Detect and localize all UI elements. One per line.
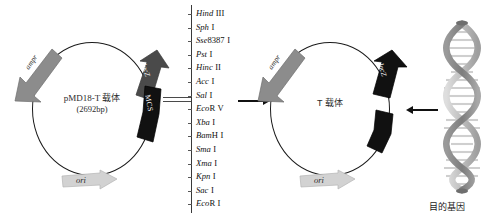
enzyme-name: Sph: [196, 22, 209, 32]
ampr-feature-right: [249, 44, 315, 106]
enzyme-name: Sma: [196, 144, 211, 154]
enzyme-tick: [188, 14, 192, 15]
enzyme-name: Kpn: [196, 171, 210, 181]
enzyme-tick: [188, 109, 192, 110]
enzyme-item[interactable]: HincII: [196, 61, 221, 74]
lacz-feature-right-upper: [362, 48, 414, 104]
enzyme-numeral: V: [218, 103, 224, 113]
right-plasmid-name-block: T 载体: [270, 98, 390, 109]
enzyme-item[interactable]: KpnI: [196, 170, 216, 183]
enzyme-tick: [188, 82, 192, 83]
ori-feature-right: [298, 170, 358, 192]
enzyme-item[interactable]: SmaI: [196, 143, 216, 156]
enzyme-tick: [188, 164, 192, 165]
left-plasmid-name-block: pMD18-T 载体 (2692bp): [32, 93, 152, 115]
figure-canvas: ampr lacZ MCS ori pMD18-T 载体 (2692bp) Hi…: [0, 0, 489, 223]
enzyme-tick: [188, 136, 192, 137]
target-gene-helix: [437, 18, 487, 196]
enzyme-numeral: II: [215, 62, 221, 72]
mcs-connector-lower: [163, 101, 192, 102]
enzyme-item[interactable]: SphI: [196, 21, 214, 34]
enzyme-numeral: I: [218, 198, 221, 208]
enzyme-item[interactable]: XmaI: [196, 157, 217, 170]
enzyme-name-suffix: H: [212, 130, 218, 140]
enzyme-name: Xba: [196, 117, 210, 127]
enzyme-item[interactable]: BamHI: [196, 129, 223, 142]
ori-feature-left: [60, 170, 120, 192]
enzyme-name: Eco: [196, 198, 209, 208]
enzyme-name: Sse: [196, 35, 207, 45]
enzyme-tick: [188, 204, 192, 205]
enzyme-item[interactable]: EcoRV: [196, 102, 224, 115]
enzyme-item[interactable]: XbaI: [196, 116, 215, 129]
enzyme-name: Pst: [196, 49, 207, 59]
restriction-enzyme-list: HindIIISphISse8387IPstIHincIIAccISalIEco…: [191, 3, 253, 217]
enzyme-name: Sal: [196, 90, 207, 100]
enzyme-numeral: I: [214, 158, 217, 168]
enzyme-name-suffix: R: [209, 198, 215, 208]
enzyme-name-suffix: R: [209, 103, 215, 113]
enzyme-name: Sac: [196, 185, 208, 195]
enzyme-item[interactable]: SalI: [196, 89, 212, 102]
enzyme-item[interactable]: AccI: [196, 75, 214, 88]
insertion-arrow: [406, 105, 438, 115]
enzyme-numeral: I: [213, 144, 216, 154]
enzyme-tick: [188, 150, 192, 151]
enzyme-tick: [188, 68, 192, 69]
enzyme-numeral: I: [227, 35, 230, 45]
enzyme-numeral: I: [209, 49, 212, 59]
target-gene-label: 目的基因: [429, 200, 465, 213]
enzyme-tick: [188, 41, 192, 42]
enzyme-name: Hinc: [196, 62, 213, 72]
enzyme-name: Bam: [196, 130, 212, 140]
enzyme-name: Hind: [196, 8, 213, 18]
enzyme-numeral: I: [212, 117, 215, 127]
right-plasmid-name: T 载体: [270, 98, 390, 109]
enzyme-numeral: I: [213, 171, 216, 181]
enzyme-tick: [188, 191, 192, 192]
enzyme-item[interactable]: HindIII: [196, 7, 224, 20]
left-plasmid-name: pMD18-T 载体: [32, 93, 152, 104]
enzyme-tick: [188, 55, 192, 56]
enzyme-item[interactable]: EcoRI: [196, 197, 220, 210]
enzyme-numeral: I: [211, 22, 214, 32]
enzyme-numeral: I: [211, 76, 214, 86]
enzyme-tick: [188, 177, 192, 178]
enzyme-numeral: I: [211, 185, 214, 195]
ori-label-left: ori: [76, 175, 86, 185]
left-plasmid-size: (2692bp): [32, 104, 152, 115]
enzyme-numeral: I: [209, 90, 212, 100]
enzyme-name: Xma: [196, 158, 212, 168]
enzyme-tick: [188, 123, 192, 124]
enzyme-item[interactable]: PstI: [196, 48, 212, 61]
mcs-connector-upper: [163, 97, 192, 98]
left-plasmid: ampr lacZ MCS ori pMD18-T 载体 (2692bp): [0, 0, 190, 223]
enzyme-item[interactable]: Sse8387I: [196, 34, 230, 47]
enzyme-numeral: III: [216, 8, 225, 18]
enzyme-name: Acc: [196, 76, 209, 86]
ori-label-right: ori: [314, 175, 324, 185]
enzyme-item[interactable]: SacI: [196, 184, 214, 197]
enzyme-tick: [188, 96, 192, 97]
enzyme-name-suffix: 8387: [207, 35, 224, 45]
enzyme-name: Eco: [196, 103, 209, 113]
enzyme-numeral: I: [220, 130, 223, 140]
right-plasmid: ampr lacZ ori T 载体: [252, 0, 402, 223]
insert-site-right: [365, 108, 407, 156]
enzyme-tick: [188, 28, 192, 29]
